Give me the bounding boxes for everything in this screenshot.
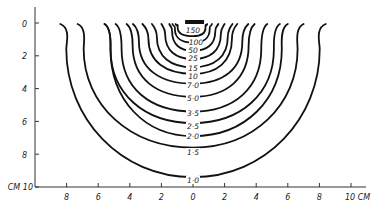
isodose-label-25: 25 (188, 54, 198, 63)
x-tick-label: 8 (64, 193, 69, 202)
x-tick-label: 0 (190, 193, 195, 202)
y-tick-label: 6 (22, 118, 27, 127)
isodose-label-3-5: 3·5 (187, 109, 199, 118)
isodose-label-150: 150 (186, 26, 201, 35)
x-axis-label: 10 CM (345, 193, 370, 202)
x-tick-label: 2 (222, 193, 227, 202)
x-tick-label: 6 (96, 193, 101, 202)
isodose-label-1-5: 1·5 (187, 148, 199, 157)
x-tick-label: 4 (127, 193, 132, 202)
x-tick-label: 6 (285, 193, 290, 202)
y-tick-label: 4 (22, 85, 27, 94)
y-axis-label: CM 10 (8, 183, 33, 192)
x-tick-label: 8 (317, 193, 322, 202)
x-tick-label: 2 (159, 193, 164, 202)
isodose-label-2-0: 2·0 (187, 132, 199, 141)
x-tick-label: 4 (254, 193, 259, 202)
isodose-label-5-0: 5·0 (187, 94, 199, 103)
y-tick-label: 0 (22, 20, 27, 29)
isodose-label-1-0: 1·0 (187, 176, 199, 185)
isodose-chart: 02468CM 1086420246810 CM 150100502515107… (0, 0, 383, 209)
y-tick-label: 2 (22, 52, 27, 61)
isodose-label-2-5: 2·5 (187, 122, 199, 131)
isodose-label-10: 10 (188, 72, 198, 81)
radiation-source-bar (185, 20, 204, 24)
isodose-label-7-0: 7·0 (187, 81, 199, 90)
y-tick-label: 8 (22, 151, 27, 160)
